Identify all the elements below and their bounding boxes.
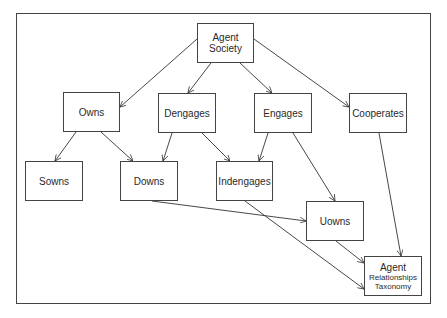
node-label: Agent bbox=[212, 32, 238, 43]
node-label: Owns bbox=[79, 107, 105, 118]
node-label: Agent bbox=[380, 262, 406, 273]
node-label: Engages bbox=[263, 108, 302, 119]
edge-engages-uowns bbox=[293, 133, 335, 201]
edge-downs-uowns bbox=[152, 201, 306, 221]
node-label: Sowns bbox=[39, 176, 69, 187]
edge-owns-sowns bbox=[55, 132, 76, 161]
node-label: Taxonomy bbox=[375, 282, 411, 291]
edge-owns-downs bbox=[101, 132, 133, 161]
node-downs: Downs bbox=[120, 161, 178, 201]
node-agent-relationships-taxonomy: Agent Relationships Taxonomy bbox=[364, 256, 422, 296]
node-agent-society: Agent Society bbox=[197, 23, 254, 63]
node-label: Indengages bbox=[218, 176, 270, 187]
edge-society-dengages bbox=[188, 63, 211, 93]
node-label: Cooperates bbox=[352, 108, 404, 119]
node-label: Society bbox=[209, 43, 242, 54]
node-label: Dengages bbox=[164, 108, 210, 119]
node-cooperates: Cooperates bbox=[349, 93, 407, 133]
edge-dengages-indengages bbox=[202, 133, 230, 161]
edge-uowns-art bbox=[336, 241, 364, 263]
node-dengages: Dengages bbox=[158, 93, 216, 133]
node-label: Relationships bbox=[369, 273, 417, 282]
node-uowns: Uowns bbox=[306, 201, 364, 241]
edge-engages-indengages bbox=[259, 133, 268, 161]
node-label: Downs bbox=[134, 176, 165, 187]
edge-dengages-downs bbox=[163, 133, 172, 161]
edge-society-engages bbox=[240, 63, 272, 93]
node-engages: Engages bbox=[254, 93, 312, 133]
node-indengages: Indengages bbox=[216, 161, 273, 201]
node-owns: Owns bbox=[63, 92, 120, 132]
node-sowns: Sowns bbox=[25, 161, 83, 201]
node-label: Uowns bbox=[320, 216, 351, 227]
edge-cooperates-art bbox=[379, 133, 401, 256]
